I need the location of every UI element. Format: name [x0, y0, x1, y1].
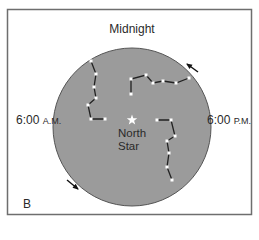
star-dot-icon	[95, 97, 98, 100]
north-star-label: NorthStar	[118, 127, 146, 153]
star-dot-icon	[93, 86, 96, 89]
star-dot-icon	[162, 80, 165, 83]
six-am-label: 6:00 A.M.	[16, 113, 61, 127]
midnight-label: Midnight	[0, 22, 259, 36]
star-dot-icon	[87, 104, 90, 107]
star-dot-icon	[90, 118, 93, 121]
star-dot-icon	[171, 179, 174, 182]
star-dot-icon	[95, 73, 98, 76]
star-dot-icon	[168, 152, 171, 155]
panel-label: B	[23, 197, 31, 211]
star-dot-icon	[130, 78, 133, 81]
star-dot-icon	[130, 93, 133, 96]
star-dot-icon	[166, 166, 169, 169]
six-pm-label: 6:00 P.M.	[207, 113, 251, 127]
star-dot-icon	[104, 118, 107, 121]
star-dot-icon	[152, 82, 155, 85]
star-dot-icon	[166, 140, 169, 143]
star-dot-icon	[175, 82, 178, 85]
star-dot-icon	[174, 135, 177, 138]
star-dot-icon	[170, 119, 173, 122]
star-dot-icon	[188, 77, 191, 80]
star-dot-icon	[156, 119, 159, 122]
star-dot-icon	[145, 74, 148, 77]
star-dot-icon	[90, 60, 93, 63]
